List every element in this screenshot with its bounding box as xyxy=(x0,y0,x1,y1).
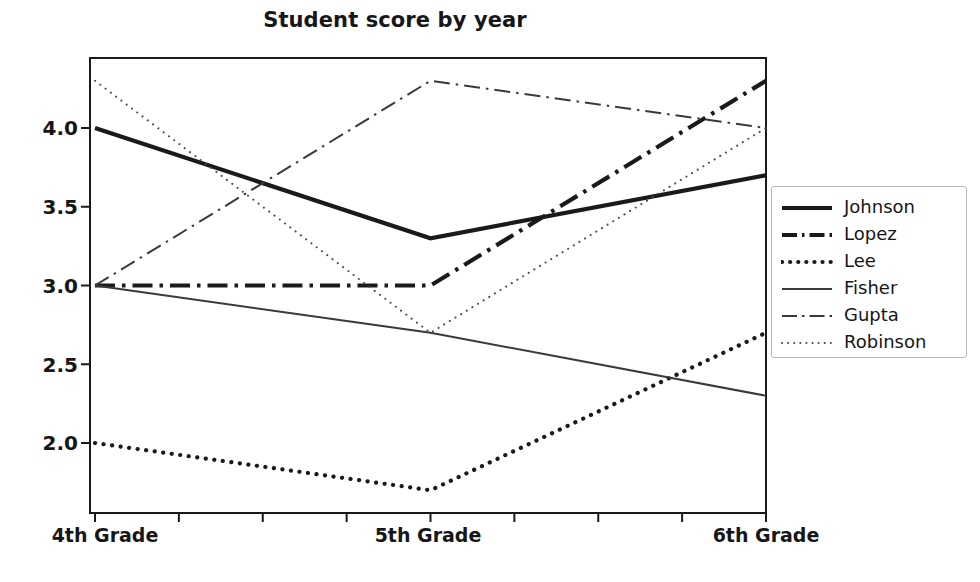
legend-label-johnson: Johnson xyxy=(844,198,915,216)
series-line-fisher xyxy=(95,286,766,396)
legend-item-johnson[interactable]: Johnson xyxy=(772,193,966,220)
ytick-label-4-0: 4.0 xyxy=(18,116,78,140)
legend-label-lopez: Lopez xyxy=(844,225,897,243)
xtick-label-4th-grade: 4th Grade xyxy=(25,524,185,546)
legend-label-gupta: Gupta xyxy=(844,306,899,324)
legend-swatch-lee-icon xyxy=(781,254,833,268)
legend-swatch-johnson-icon xyxy=(781,200,833,214)
legend-swatch-gupta-icon xyxy=(781,308,833,322)
legend-item-fisher[interactable]: Fisher xyxy=(772,274,966,301)
legend-swatch-robinson-icon xyxy=(781,335,833,349)
legend-label-lee: Lee xyxy=(844,252,876,270)
series-line-lee xyxy=(95,333,766,491)
legend-swatch-lopez-icon xyxy=(781,227,833,241)
series-line-robinson xyxy=(95,81,766,333)
legend-item-robinson[interactable]: Robinson xyxy=(772,328,966,355)
series-lines xyxy=(95,81,766,491)
legend-label-fisher: Fisher xyxy=(844,279,897,297)
chart-figure: Student score by year 4.0 3.5 3.0 2.5 2.… xyxy=(0,0,980,582)
ytick-label-3-5: 3.5 xyxy=(18,195,78,219)
legend-item-gupta[interactable]: Gupta xyxy=(772,301,966,328)
legend-item-lee[interactable]: Lee xyxy=(772,247,966,274)
legend-item-lopez[interactable]: Lopez xyxy=(772,220,966,247)
series-line-gupta xyxy=(95,81,766,286)
ytick-label-2-5: 2.5 xyxy=(18,353,78,377)
series-line-lopez xyxy=(95,81,766,286)
ytick-label-3-0: 3.0 xyxy=(18,274,78,298)
xtick-label-6th-grade: 6th Grade xyxy=(686,524,846,546)
legend-label-robinson: Robinson xyxy=(844,333,926,351)
ytick-label-2-0: 2.0 xyxy=(18,431,78,455)
legend-swatch-fisher-icon xyxy=(781,281,833,295)
chart-legend: JohnsonLopezLeeFisherGuptaRobinson xyxy=(771,186,967,358)
xtick-label-5th-grade: 5th Grade xyxy=(348,524,508,546)
plot-frame xyxy=(90,58,766,513)
x-axis-ticks xyxy=(95,513,766,522)
